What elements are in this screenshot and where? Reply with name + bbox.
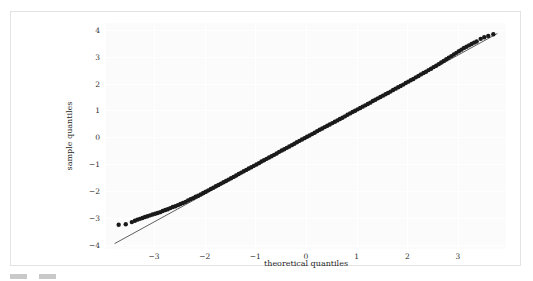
caption-swatch-left [10, 274, 27, 279]
y-axis-title: sample quantiles [65, 102, 74, 171]
scatter-point [124, 222, 128, 226]
y-tick-label: 4 [84, 25, 100, 34]
y-tick-label: 0 [84, 133, 100, 142]
y-tick-label: −2 [84, 187, 100, 196]
y-tick-label: −4 [84, 240, 100, 249]
scatter-point [486, 34, 490, 38]
caption-strip [10, 272, 510, 281]
y-tick-label: −3 [84, 214, 100, 223]
y-tick-label: 2 [84, 79, 100, 88]
scatter-point [116, 223, 120, 227]
caption-swatch-right [39, 274, 56, 279]
scatter-point [474, 39, 478, 43]
y-tick-label: −1 [84, 160, 100, 169]
y-tick-label: 3 [84, 52, 100, 61]
x-axis-title: theoretical quantiles [106, 259, 506, 268]
figure-card: −3−2−10123 −4−3−2−101234 theoretical qua… [10, 11, 521, 266]
scatter-point [491, 32, 495, 36]
qq-plot-area [106, 23, 506, 249]
scatter-point [482, 35, 486, 39]
y-tick-label: 1 [84, 106, 100, 115]
scatter-points [106, 23, 506, 249]
